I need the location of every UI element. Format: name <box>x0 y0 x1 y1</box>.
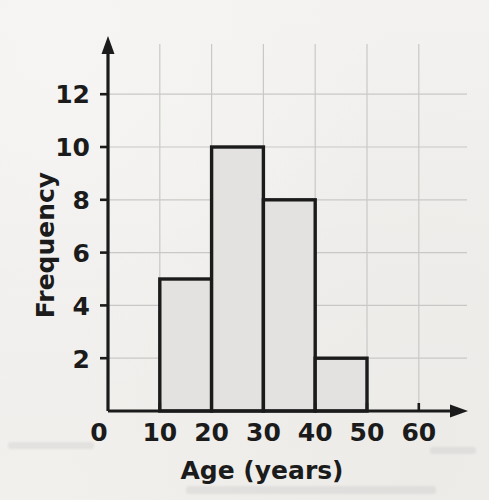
y-axis-tick-labels: 12 10 8 6 4 2 <box>55 80 90 374</box>
x-tick-label-30: 30 <box>246 418 281 447</box>
y-axis-title: Frequency <box>31 172 60 318</box>
x-tick-label-50: 50 <box>350 418 385 447</box>
origin-tick-label: 0 <box>90 418 107 447</box>
y-tick-label-6: 6 <box>73 239 90 268</box>
y-tick-label-4: 4 <box>73 292 90 321</box>
y-tick-label-12: 12 <box>55 80 90 109</box>
x-axis-title: Age (years) <box>180 456 343 485</box>
arrow-up-icon <box>102 36 115 54</box>
bar-20-30[interactable] <box>212 147 264 411</box>
y-tick-label-2: 2 <box>73 345 90 374</box>
bar-10-20[interactable] <box>160 279 212 411</box>
y-tick-label-8: 8 <box>73 186 90 215</box>
histogram-chart: 12 10 8 6 4 2 0 10 20 30 40 50 60 Age (y… <box>0 0 489 500</box>
bar-40-50[interactable] <box>315 358 367 411</box>
bar-30-40[interactable] <box>263 200 315 411</box>
arrow-right-icon <box>450 405 468 418</box>
x-axis-tick-labels: 10 20 30 40 50 60 <box>142 418 436 447</box>
x-tick-label-10: 10 <box>142 418 177 447</box>
bar-series <box>160 147 367 411</box>
x-tick-label-40: 40 <box>298 418 333 447</box>
y-tick-label-10: 10 <box>55 133 90 162</box>
x-tick-label-20: 20 <box>194 418 229 447</box>
x-tick-label-60: 60 <box>401 418 436 447</box>
